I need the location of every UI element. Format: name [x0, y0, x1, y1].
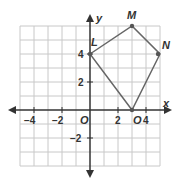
x-tick-label: −4 — [24, 115, 36, 126]
y-tick-label: 2 — [78, 77, 84, 88]
vertex-label-L: L — [91, 36, 98, 48]
y-axis-up-arrow-icon — [86, 14, 94, 22]
origin-label: O — [80, 114, 89, 126]
x-tick-label: 4 — [143, 115, 149, 126]
coordinate-plane: −4 −2 2 4 4 2 −2 O x y L M N O — [0, 0, 179, 181]
x-axis-label: x — [162, 97, 170, 109]
x-tick-label: −2 — [52, 115, 64, 126]
vertex-label-O: O — [133, 114, 142, 126]
vertex-label-N: N — [162, 39, 171, 51]
y-axis-label: y — [95, 12, 103, 24]
y-tick-label: 4 — [78, 49, 84, 60]
x-axis-left-arrow-icon — [8, 106, 16, 114]
x-tick-label: 2 — [115, 115, 121, 126]
y-tick-label: −2 — [70, 133, 82, 144]
y-axis-down-arrow-icon — [86, 170, 94, 178]
vertex-label-M: M — [127, 9, 137, 21]
